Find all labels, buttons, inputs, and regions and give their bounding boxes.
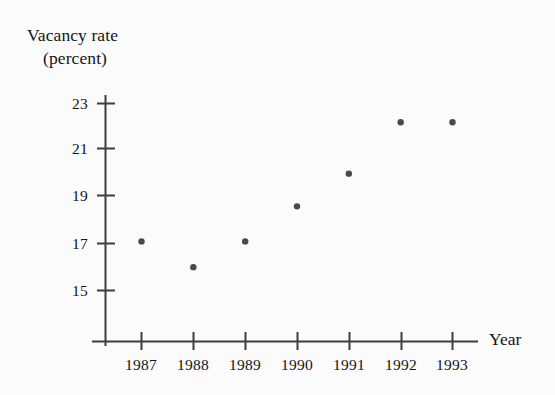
data-point <box>138 238 144 244</box>
x-axis-title: Year <box>489 329 521 350</box>
x-tick-label-1988: 1988 <box>165 356 221 374</box>
y-tick-label-15: 15 <box>48 282 88 300</box>
x-tick-label-1987: 1987 <box>113 356 169 374</box>
data-point <box>190 264 196 270</box>
vacancy-rate-scatter-chart: Vacancy rate (percent) 23 21 19 <box>0 0 555 395</box>
y-tick-label-17: 17 <box>48 235 88 253</box>
x-tick-label-1990: 1990 <box>269 356 325 374</box>
x-tick-label-1991: 1991 <box>321 356 377 374</box>
data-point <box>397 119 403 125</box>
y-tick-label-23: 23 <box>48 95 88 113</box>
y-tick-label-21: 21 <box>48 140 88 158</box>
data-point-group <box>138 119 455 270</box>
data-point <box>294 203 300 209</box>
data-point <box>346 170 352 176</box>
data-point <box>242 238 248 244</box>
data-point <box>449 119 455 125</box>
y-tick-label-19: 19 <box>48 187 88 205</box>
x-tick-label-1992: 1992 <box>373 356 429 374</box>
x-tick-label-1993: 1993 <box>424 356 480 374</box>
x-tick-label-1989: 1989 <box>217 356 273 374</box>
